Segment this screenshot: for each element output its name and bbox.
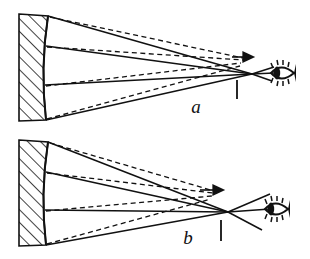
concave-mirror-a (19, 14, 48, 121)
optics-ray-diagram-figure: a (0, 0, 310, 259)
panel-label-b: b (183, 227, 193, 248)
panel-label-a: a (191, 96, 201, 117)
figure-background (0, 0, 310, 259)
concave-mirror-b (19, 140, 48, 246)
